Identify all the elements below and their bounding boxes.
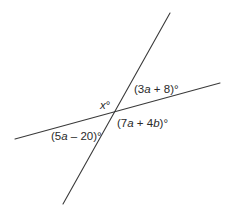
label-part: + 8)° xyxy=(151,83,179,95)
angle-label-5a-minus-20: (5a – 20)° xyxy=(51,131,102,143)
degree-symbol: ° xyxy=(106,99,111,111)
label-part: (7 xyxy=(117,117,127,129)
diagram-canvas xyxy=(0,0,232,216)
label-part: (5 xyxy=(51,130,61,142)
label-part: – 20)° xyxy=(68,130,102,142)
steep-line xyxy=(63,13,170,204)
angle-label-7a-plus-4b: (7a + 4b)° xyxy=(117,118,168,130)
shallow-line xyxy=(15,83,220,139)
label-part: + 4 xyxy=(134,117,154,129)
label-part: (3 xyxy=(134,83,144,95)
angle-label-3a-plus-8: (3a + 8)° xyxy=(134,84,179,96)
angle-label-x: x° xyxy=(100,100,110,112)
label-part: )° xyxy=(160,117,168,129)
